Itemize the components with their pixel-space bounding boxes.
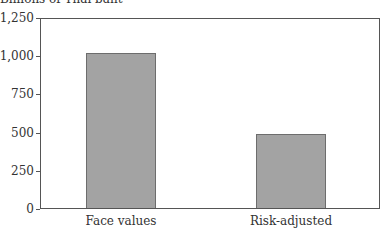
y-tick-label: 1,250: [0, 12, 34, 24]
y-axis-title: Billions of Thai baht: [0, 0, 123, 6]
plot-frame: [40, 18, 380, 209]
y-tick-label: 500: [11, 127, 34, 139]
y-tick-label: 1,000: [0, 50, 34, 62]
x-category-label: Risk-adjusted: [221, 214, 361, 228]
y-tick-label: 750: [11, 88, 34, 100]
x-category-label: Face values: [51, 214, 191, 228]
y-tick-label: 250: [11, 165, 34, 177]
y-tick-label: 0: [26, 203, 34, 215]
y-tick: [36, 209, 40, 210]
